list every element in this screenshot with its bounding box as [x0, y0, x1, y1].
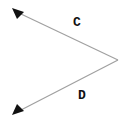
ray-c	[21, 14, 118, 60]
ray-label-c: C	[73, 16, 81, 29]
ray-label-d: D	[78, 89, 86, 102]
arrowhead-d-icon	[12, 104, 24, 115]
angle-diagram-svg	[0, 0, 132, 123]
arrowhead-c-icon	[12, 8, 24, 19]
ray-d	[21, 60, 118, 110]
angle-diagram: C D	[0, 0, 132, 123]
